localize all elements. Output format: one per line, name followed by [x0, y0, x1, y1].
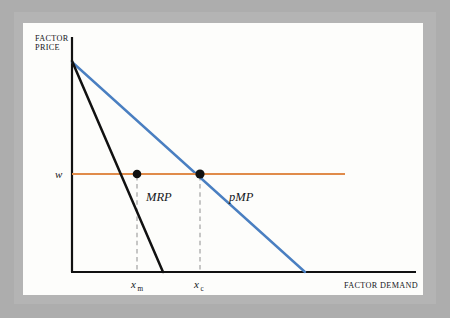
- axes-group: [71, 37, 416, 272]
- mrp-curve: [72, 61, 163, 272]
- figure-root: FACTOR PRICE FACTOR DEMAND MRP pMP w x m: [0, 0, 450, 318]
- monopsony-equilibrium-marker: [133, 170, 142, 179]
- tick-label-xm-subscript: m: [138, 285, 144, 293]
- pmp-curve-label: pMP: [228, 190, 254, 204]
- tick-label-xm: x m: [130, 278, 144, 293]
- tick-label-xc-base: x: [193, 278, 199, 290]
- pmp-curve: [72, 62, 305, 272]
- tick-label-xc: x c: [193, 278, 204, 293]
- tick-label-xm-base: x: [130, 278, 136, 290]
- factor-demand-chart: FACTOR PRICE FACTOR DEMAND MRP pMP w x m: [0, 0, 450, 318]
- y-axis-title: FACTOR PRICE: [35, 34, 69, 52]
- y-axis-title-line2: PRICE: [35, 43, 60, 52]
- wage-tick-label: w: [55, 168, 63, 180]
- tick-label-xc-subscript: c: [201, 285, 204, 293]
- x-axis-title: FACTOR DEMAND: [344, 281, 418, 290]
- mrp-curve-label: MRP: [145, 190, 172, 204]
- y-axis-title-line1: FACTOR: [35, 34, 69, 43]
- competitive-equilibrium-marker: [195, 169, 204, 178]
